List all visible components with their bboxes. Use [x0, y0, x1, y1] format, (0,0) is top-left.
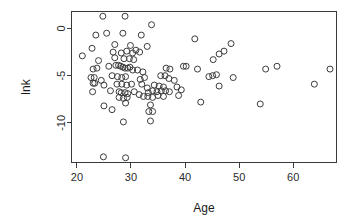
y-tick-label: -10 — [56, 115, 68, 131]
x-tick-label: 60 — [287, 171, 299, 183]
data-point — [90, 89, 96, 95]
data-point — [274, 63, 280, 69]
data-point — [106, 63, 112, 69]
data-point — [101, 103, 107, 109]
data-point — [138, 32, 144, 38]
x-tick-label: 40 — [179, 171, 191, 183]
data-point — [213, 72, 219, 78]
data-point — [107, 88, 113, 94]
data-point — [104, 30, 110, 36]
data-point — [263, 66, 269, 72]
data-point — [131, 57, 137, 63]
data-point — [94, 65, 100, 71]
data-point — [120, 119, 126, 125]
data-point — [228, 41, 234, 47]
data-point — [140, 69, 146, 75]
scatter-plot-figure: 0-5-10 2030405060 Age lnk — [0, 0, 354, 222]
data-point — [149, 22, 155, 28]
data-point — [79, 53, 85, 59]
data-point — [147, 118, 153, 124]
data-point — [311, 81, 317, 87]
data-point — [174, 84, 180, 90]
data-point — [216, 83, 222, 89]
data-point — [96, 58, 102, 64]
data-point — [120, 30, 126, 36]
data-point — [221, 48, 227, 54]
data-point — [167, 66, 173, 72]
data-point — [195, 66, 201, 72]
data-point — [101, 82, 107, 88]
data-point — [176, 92, 182, 98]
data-point — [127, 42, 133, 48]
data-point — [109, 107, 115, 113]
data-point — [123, 74, 129, 80]
data-point — [110, 49, 116, 55]
y-tick-label: 0 — [56, 25, 68, 31]
data-point — [198, 99, 204, 105]
data-point — [178, 87, 184, 93]
data-point — [147, 102, 153, 108]
data-point — [150, 109, 156, 115]
data-point — [166, 89, 172, 95]
data-point — [123, 155, 129, 161]
x-tick-label: 30 — [125, 171, 137, 183]
data-point — [327, 66, 333, 72]
y-tick-label: -5 — [56, 71, 68, 81]
data-point — [100, 13, 106, 19]
data-point — [112, 55, 118, 61]
data-point — [144, 43, 150, 49]
data-point — [93, 32, 99, 38]
data-point — [171, 77, 177, 83]
data-point — [124, 48, 130, 54]
x-axis: 2030405060 — [71, 163, 300, 183]
data-point — [192, 36, 198, 42]
data-point — [210, 57, 216, 63]
plot-frame-box — [72, 12, 337, 163]
data-point — [89, 45, 95, 51]
data-point — [122, 13, 128, 19]
data-point — [100, 154, 106, 160]
y-axis-title: lnk — [19, 78, 33, 94]
data-point-series — [79, 13, 333, 161]
plot-canvas: 0-5-10 2030405060 Age lnk — [0, 0, 354, 222]
x-axis-title: Age — [193, 201, 215, 215]
y-axis: 0-5-10 — [56, 25, 72, 130]
data-point — [257, 101, 263, 107]
data-point — [230, 75, 236, 81]
x-tick-label: 50 — [233, 171, 245, 183]
data-point — [112, 42, 118, 48]
x-tick-label: 20 — [71, 171, 83, 183]
